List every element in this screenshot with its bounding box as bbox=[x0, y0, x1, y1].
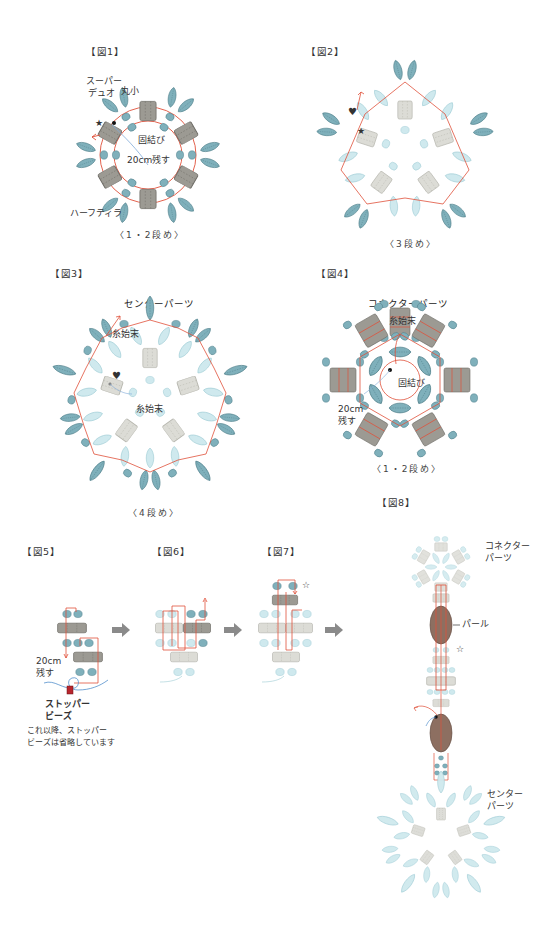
fig8-connector-label-2: パーツ bbox=[485, 553, 512, 564]
fig8-connector-label-1: コネクター bbox=[485, 541, 530, 552]
fig8-diagram bbox=[0, 0, 558, 932]
fig8-center-label-1: センター bbox=[487, 789, 523, 800]
fig8-center-label-2: パーツ bbox=[487, 801, 514, 812]
fig8-pearl-label: パール bbox=[462, 619, 489, 630]
fig8-star-icon: ☆ bbox=[456, 644, 464, 655]
